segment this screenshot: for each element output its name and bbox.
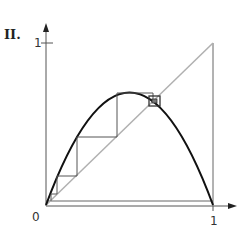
x-axis-arrow-icon [228, 203, 237, 209]
diagonal-line [46, 43, 213, 205]
parabola-curve [46, 93, 213, 206]
y-axis-arrow-icon [43, 23, 49, 32]
fixed-point-box-inner [152, 99, 157, 103]
cobweb-diagram [0, 0, 247, 236]
